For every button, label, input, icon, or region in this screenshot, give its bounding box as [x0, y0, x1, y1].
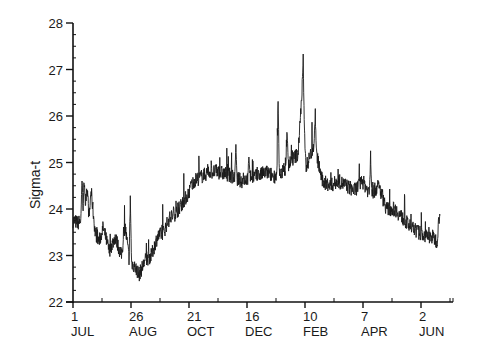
y-tick-label: 23	[49, 249, 63, 264]
y-tick-label: 22	[49, 295, 63, 310]
x-tick-day: 21	[187, 309, 201, 324]
x-tick-month: DEC	[245, 324, 272, 339]
x-tick-day: 10	[303, 309, 317, 324]
x-tick-month: JUN	[419, 324, 444, 339]
x-tick-day: 1	[71, 309, 78, 324]
x-tick-month: AUG	[129, 324, 157, 339]
sigma-t-time-series-chart: 22232425262728 1JUL26AUG21OCT16DEC10FEB7…	[0, 0, 477, 350]
y-tick-label: 26	[49, 109, 63, 124]
x-tick-day: 7	[361, 309, 368, 324]
y-tick-label: 24	[49, 202, 63, 217]
y-tick-label: 27	[49, 63, 63, 78]
x-axis: 1JUL26AUG21OCT16DEC10FEB7APR2JUN	[66, 298, 453, 339]
x-tick-day: 16	[245, 309, 259, 324]
x-tick-day: 2	[419, 309, 426, 324]
x-tick-month: OCT	[187, 324, 215, 339]
y-tick-label: 25	[49, 156, 63, 171]
data-trace	[73, 54, 440, 281]
y-axis-title: Sigma-t	[27, 161, 43, 209]
y-tick-label: 28	[49, 16, 63, 31]
x-tick-month: FEB	[303, 324, 328, 339]
x-tick-month: JUL	[71, 324, 94, 339]
x-tick-month: APR	[361, 324, 388, 339]
y-axis: 22232425262728	[49, 16, 76, 310]
x-tick-day: 26	[129, 309, 143, 324]
